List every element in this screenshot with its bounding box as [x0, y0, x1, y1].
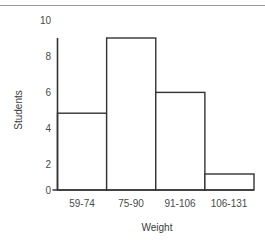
- y-tick-label: 10: [40, 15, 52, 26]
- y-axis-tick-labels: 10 8 6 4 2 0: [40, 15, 52, 196]
- y-tick-label: 0: [45, 185, 51, 196]
- histogram-chart: 10 8 6 4 2 0 59-74 75-90 91-106 106-131 …: [0, 0, 265, 241]
- x-tick-label: 59-74: [69, 198, 95, 209]
- x-axis-tick-labels: 59-74 75-90 91-106 106-131: [69, 198, 248, 209]
- bar[interactable]: [205, 174, 254, 190]
- bar[interactable]: [107, 38, 156, 190]
- x-tick-label: 91-106: [164, 198, 196, 209]
- bar-group: [58, 38, 255, 190]
- y-tick-label: 2: [45, 159, 51, 170]
- bar[interactable]: [58, 113, 107, 190]
- x-axis-title: Weight: [142, 222, 173, 233]
- bar[interactable]: [156, 92, 205, 190]
- y-tick-label: 4: [45, 123, 51, 134]
- y-axis-title: Students: [13, 90, 24, 129]
- x-tick-label: 75-90: [118, 198, 144, 209]
- y-tick-label: 8: [45, 51, 51, 62]
- x-tick-label: 106-131: [211, 198, 248, 209]
- y-tick-label: 6: [45, 87, 51, 98]
- chart-canvas: 10 8 6 4 2 0 59-74 75-90 91-106 106-131 …: [0, 0, 265, 241]
